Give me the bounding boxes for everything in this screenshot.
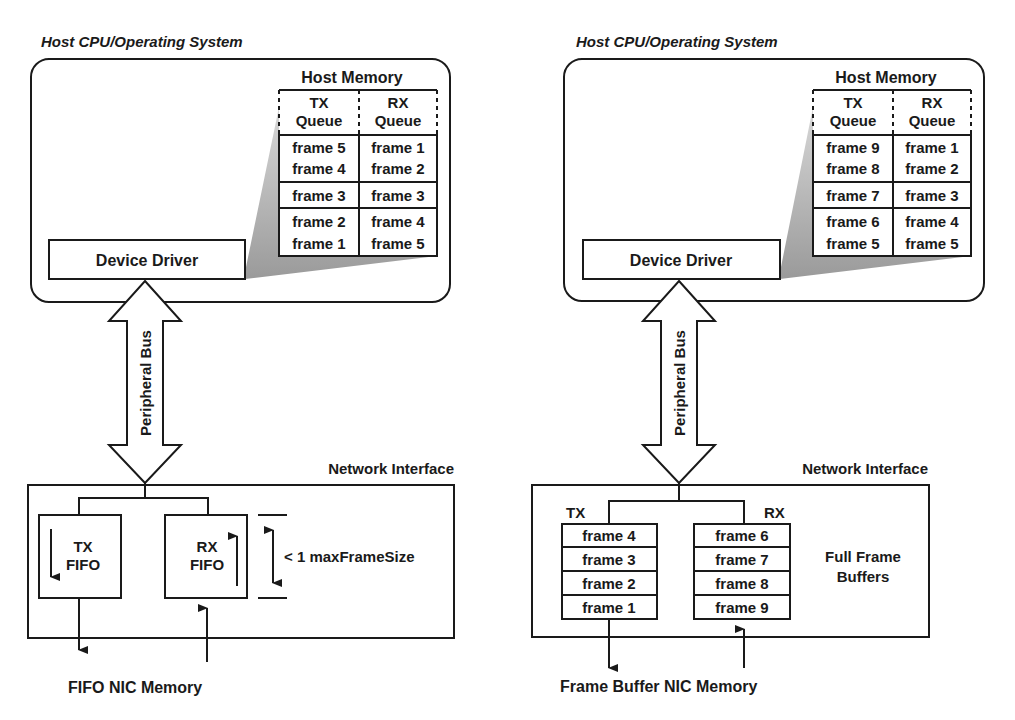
host-memory-table: TX Queue RX Queue frame 9 frame 8 frame … (813, 90, 971, 256)
rx-queue-item: frame 5 (371, 235, 424, 252)
tx-queue-item: frame 4 (292, 160, 346, 177)
host-memory-label: Host Memory (835, 69, 936, 86)
rx-queue-item: frame 3 (371, 187, 424, 204)
rx-fifo-label: FIFO (190, 556, 224, 573)
frame-buffer-nic-diagram: Host CPU/Operating System Host Memory TX… (532, 33, 984, 695)
tx-buffer-item: frame 4 (582, 527, 636, 544)
rx-queue-item: frame 3 (905, 187, 958, 204)
tx-queue-header: Queue (830, 112, 877, 129)
tx-queue-item: frame 1 (292, 235, 345, 252)
rx-queue-item: frame 5 (905, 235, 958, 252)
tx-buffer-item: frame 3 (582, 551, 635, 568)
tx-queue-item: frame 7 (826, 187, 879, 204)
tx-queue-item: frame 8 (826, 160, 879, 177)
tx-queue-header: TX (843, 94, 862, 111)
tx-queue-header: TX (309, 94, 328, 111)
tx-buffers-label: TX (566, 504, 585, 521)
rx-queue-item: frame 2 (905, 160, 958, 177)
rx-queue-header: Queue (375, 112, 422, 129)
rx-queue-header: RX (922, 94, 943, 111)
bus-branch (79, 498, 208, 515)
rx-fifo-label: RX (197, 538, 218, 555)
rx-queue-item: frame 2 (371, 160, 424, 177)
rx-buffers-label: RX (764, 504, 785, 521)
rx-buffer-item: frame 8 (715, 575, 768, 592)
peripheral-bus-label: Peripheral Bus (137, 330, 154, 436)
tx-buffer-item: frame 2 (582, 575, 635, 592)
full-frame-buffers-label: Buffers (837, 568, 890, 585)
network-interface-label: Network Interface (328, 460, 454, 477)
tx-queue-item: frame 6 (826, 213, 879, 230)
tx-queue-header: Queue (296, 112, 343, 129)
tx-queue-item: frame 3 (292, 187, 345, 204)
peripheral-bus-label: Peripheral Bus (671, 330, 688, 436)
frame-buffer-nic-caption: Frame Buffer NIC Memory (560, 678, 757, 695)
rx-queue-header: Queue (909, 112, 956, 129)
device-driver-label: Device Driver (630, 252, 732, 269)
tx-queue-item: frame 9 (826, 139, 879, 156)
tx-fifo-label: TX (73, 538, 92, 555)
full-frame-buffers-label: Full Frame (825, 548, 901, 565)
dimension-label: < 1 maxFrameSize (284, 548, 415, 565)
fifo-nic-caption: FIFO NIC Memory (68, 679, 202, 696)
rx-buffer-item: frame 7 (715, 551, 768, 568)
host-cpu-title: Host CPU/Operating System (41, 33, 243, 50)
rx-buffer-item: frame 6 (715, 527, 768, 544)
rx-buffer-item: frame 9 (715, 599, 768, 616)
tx-buffer-item: frame 1 (582, 599, 635, 616)
rx-frame-buffers: frame 6 frame 7 frame 8 frame 9 (694, 524, 790, 619)
tx-queue-item: frame 5 (826, 235, 879, 252)
tx-queue-item: frame 5 (292, 139, 345, 156)
rx-queue-item: frame 1 (371, 139, 424, 156)
tx-frame-buffers: frame 4 frame 3 frame 2 frame 1 (562, 524, 657, 619)
rx-queue-item: frame 4 (905, 213, 959, 230)
host-memory-table: TX Queue RX Queue frame 5 frame 4 frame … (279, 90, 437, 256)
tx-queue-item: frame 2 (292, 213, 345, 230)
rx-queue-item: frame 1 (905, 139, 958, 156)
network-interface-label: Network Interface (802, 460, 928, 477)
rx-queue-header: RX (388, 94, 409, 111)
bus-branch (609, 501, 744, 524)
fifo-nic-diagram: Host CPU/Operating System Host Memory TX… (28, 33, 454, 696)
host-cpu-title: Host CPU/Operating System (576, 33, 778, 50)
tx-fifo-label: FIFO (66, 556, 100, 573)
host-memory-label: Host Memory (301, 69, 402, 86)
rx-queue-item: frame 4 (371, 213, 425, 230)
device-driver-label: Device Driver (96, 252, 198, 269)
nic-memory-diagram: Host CPU/Operating System Host Memory TX… (0, 0, 1015, 720)
